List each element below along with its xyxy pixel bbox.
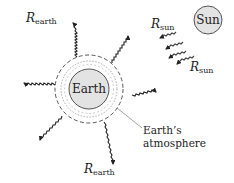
radiation-diagram: Earth Sun Rearth Rearth Rsun R bbox=[0, 0, 234, 183]
svg-text:Rsun: Rsun bbox=[150, 17, 174, 32]
svg-text:Rsun: Rsun bbox=[189, 60, 213, 75]
wavy-arrow-icon bbox=[24, 83, 55, 85]
svg-text:Earth’s: Earth’s bbox=[143, 124, 182, 136]
svg-text:Rearth: Rearth bbox=[83, 162, 115, 177]
label-r-sun-top: Rsun bbox=[150, 17, 174, 32]
wavy-arrow-icon bbox=[166, 42, 183, 49]
wavy-arrow-icon bbox=[112, 36, 128, 63]
label-r-earth-bottom: Rearth bbox=[83, 162, 115, 177]
wavy-arrow-icon bbox=[73, 23, 77, 57]
wavy-arrow-icon bbox=[169, 51, 186, 58]
sun-radiation-arrows bbox=[160, 32, 194, 64]
wavy-arrow-icon bbox=[160, 32, 176, 38]
atmosphere-leader-line bbox=[117, 108, 142, 128]
atmosphere-label: Earth’s atmosphere bbox=[143, 124, 206, 149]
svg-text:Rearth: Rearth bbox=[25, 11, 57, 26]
svg-text:atmosphere: atmosphere bbox=[143, 137, 206, 149]
sun-label: Sun bbox=[196, 13, 220, 27]
wavy-arrow-icon bbox=[104, 122, 113, 164]
label-r-earth-top: Rearth bbox=[25, 11, 57, 26]
wavy-arrow-icon bbox=[132, 90, 156, 96]
earth-label: Earth bbox=[72, 82, 106, 96]
wavy-arrow-icon bbox=[40, 116, 62, 140]
sun: Sun bbox=[194, 6, 222, 34]
earth: Earth bbox=[69, 69, 109, 109]
label-r-sun-bottom: Rsun bbox=[189, 60, 213, 75]
